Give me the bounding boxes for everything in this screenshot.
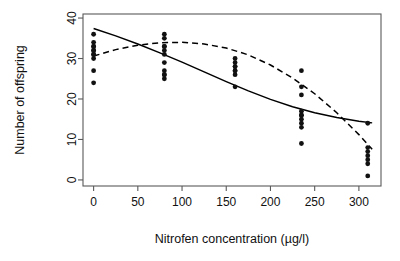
data-point	[233, 72, 238, 77]
data-point	[162, 52, 167, 57]
x-tick-label: 200	[260, 195, 280, 209]
x-tick-label: 0	[90, 195, 97, 209]
data-point	[91, 68, 96, 73]
y-tick-label: 40	[65, 11, 79, 25]
y-tick-label: 0	[65, 176, 79, 183]
data-point	[299, 141, 304, 146]
data-point	[299, 84, 304, 89]
data-point	[162, 36, 167, 41]
data-point	[365, 121, 370, 126]
data-point	[365, 173, 370, 178]
scatter-plot: 050100150200250300 010203040 Nitrofen co…	[0, 0, 400, 261]
chart-container: 050100150200250300 010203040 Nitrofen co…	[0, 0, 400, 261]
data-point	[91, 56, 96, 61]
x-axis-tick-labels: 050100150200250300	[90, 195, 369, 209]
y-axis-tick-labels: 010203040	[65, 11, 79, 183]
x-tick-label: 50	[131, 195, 145, 209]
x-axis-label: Nitrofen concentration (µg/l)	[155, 232, 310, 246]
data-point	[365, 161, 370, 166]
data-point	[233, 84, 238, 89]
data-point	[91, 32, 96, 37]
y-tick-label: 20	[65, 92, 79, 106]
data-point	[91, 80, 96, 85]
fitted-curves	[94, 29, 373, 150]
x-tick-label: 300	[349, 195, 369, 209]
data-point	[299, 93, 304, 98]
y-axis-label: Number of offspring	[13, 45, 27, 155]
x-tick-label: 100	[172, 195, 192, 209]
data-point	[299, 125, 304, 130]
data-point	[299, 68, 304, 73]
y-tick-label: 10	[65, 132, 79, 146]
data-point	[162, 60, 167, 65]
x-tick-label: 150	[216, 195, 236, 209]
data-point	[162, 76, 167, 81]
x-tick-label: 250	[305, 195, 325, 209]
y-tick-label: 30	[65, 52, 79, 66]
x-axis-ticks	[94, 186, 359, 191]
curve-solid-fit	[94, 29, 373, 123]
